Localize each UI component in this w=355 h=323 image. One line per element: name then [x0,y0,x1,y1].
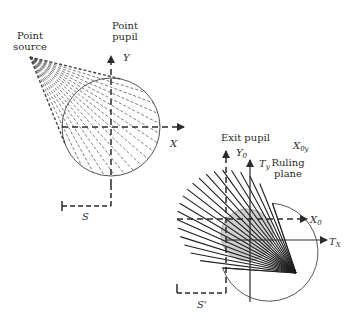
distance-s-prime-label: S' [197,299,207,310]
ty-label-main: T [259,158,266,169]
y0-label: Y0 [236,147,247,162]
y-axis-label: Y [123,52,130,63]
y0-label-sub: 0 [243,152,247,160]
point-source-label-line2: source [10,41,50,52]
point-source-label-line1: Point [10,30,50,41]
point-source-label: Point source [10,30,50,52]
tx-label-main: T [329,236,336,247]
x-axis-label: X [170,138,177,149]
ruling-plane-label: Ruling plane [271,157,305,179]
ruling-plane-label-line2: plane [271,168,305,179]
point-pupil-label: Point pupil [107,20,143,42]
exit-pupil-label: Exit pupil [221,132,270,143]
distance-s-label: S [82,211,89,222]
point-pupil-label-line1: Point [107,20,143,31]
x0y-label: X0y [293,140,309,155]
distance-s-bracket [62,185,111,211]
point-source-rays [30,57,160,176]
tx-label-sub: X [336,241,341,249]
x0-label: X0 [310,214,322,229]
exit-pupil-rays [177,170,296,273]
ty-label: Ty [259,158,270,173]
x0y-label-sub: 0y [300,145,308,153]
ty-label-sub: y [266,163,270,171]
distance-s-prime-bracket [177,284,226,293]
ruling-plane-label-line1: Ruling [271,157,305,168]
ray-diagram: Point source Point pupil Y X S Exit pupi… [0,0,355,323]
point-pupil-label-line2: pupil [107,31,143,42]
left-panel [30,56,184,211]
x0-label-sub: 0 [317,219,321,227]
y0-label-main: Y [236,147,243,158]
tx-label: TX [329,236,341,251]
